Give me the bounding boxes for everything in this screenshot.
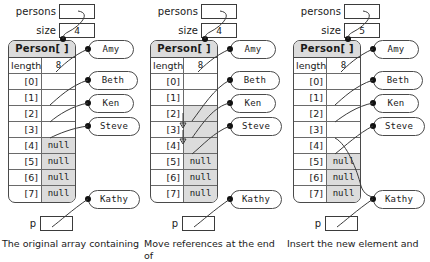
array-index-label: [6] (294, 170, 327, 185)
array-row[interactable]: [4] (151, 138, 217, 154)
array-row[interactable]: [0] (151, 74, 217, 90)
array-row[interactable]: [2] (9, 106, 75, 122)
panel-original-array: persons size 4 Person[ ] length 8 [0] [1… (0, 0, 145, 250)
array-cell-value: null (42, 154, 75, 169)
array-row[interactable]: [3] (294, 122, 360, 138)
p-value-box[interactable] (40, 216, 73, 231)
array-row[interactable]: [6]null (294, 170, 360, 186)
array-row[interactable]: [5]null (294, 154, 360, 170)
object-bubble-kathy[interactable]: Kathy (88, 190, 140, 209)
array-length-key: length (151, 58, 184, 73)
array-row[interactable]: [1] (9, 90, 75, 106)
persons-label: persons (146, 6, 198, 17)
object-bubble-kathy[interactable]: Kathy (373, 190, 425, 209)
array-length-value: 8 (42, 58, 75, 73)
p-value-box[interactable] (325, 216, 358, 231)
p-value-box[interactable] (182, 216, 215, 231)
array-row[interactable]: [3] (9, 122, 75, 138)
persons-value-box[interactable] (59, 4, 95, 19)
object-bubble-amy[interactable]: Amy (88, 40, 134, 59)
persons-reference-dot (345, 36, 351, 42)
p-variable-row: p (309, 216, 358, 231)
array-row[interactable]: [4] (294, 138, 360, 154)
amy-reference-dot (227, 46, 233, 52)
array-cell-value (327, 106, 360, 121)
array-cell-value: null (184, 154, 217, 169)
array-row[interactable]: [4]null (9, 138, 75, 154)
array-cell-value (327, 74, 360, 89)
array-index-label: [2] (9, 106, 42, 121)
object-bubble-beth[interactable]: Beth (88, 71, 138, 90)
object-bubble-steve[interactable]: Steve (230, 117, 282, 136)
array-index-label: [3] (151, 122, 184, 137)
persons-value-box[interactable] (344, 4, 380, 19)
object-bubble-amy[interactable]: Amy (230, 40, 276, 59)
panel-caption: The original array containing (2, 238, 145, 250)
array-row[interactable]: [7]null (294, 186, 360, 202)
array-index-label: [2] (294, 106, 327, 121)
ken-reference-dot (85, 100, 91, 106)
array-cell-value: null (42, 170, 75, 185)
array-object: Person[ ] length 8 [0] [1] [2] [3] [4]nu… (8, 40, 76, 203)
array-cell-value: null (42, 138, 75, 153)
array-row[interactable]: [0] (294, 74, 360, 90)
beth-reference-dot (227, 77, 233, 83)
array-row[interactable]: [2] (294, 106, 360, 122)
object-bubble-steve[interactable]: Steve (373, 117, 425, 136)
persons-value-box[interactable] (201, 4, 237, 19)
array-cell-value (184, 122, 217, 137)
array-row[interactable]: [1] (151, 90, 217, 106)
array-index-label: [6] (151, 170, 184, 185)
array-cell-value (184, 106, 217, 121)
object-bubble-kathy[interactable]: Kathy (230, 190, 282, 209)
array-row[interactable]: [5]null (9, 154, 75, 170)
beth-reference-dot (370, 77, 376, 83)
array-cell-value: null (327, 170, 360, 185)
array-index-label: [1] (9, 90, 42, 105)
array-index-label: [3] (9, 122, 42, 137)
array-cell-value (42, 122, 75, 137)
size-variable-row: size 4 (146, 23, 237, 38)
array-index-label: [7] (9, 186, 42, 202)
array-cell-value (42, 90, 75, 105)
object-bubble-beth[interactable]: Beth (230, 71, 280, 90)
array-row[interactable]: [3] (151, 122, 217, 138)
array-cell-value (42, 106, 75, 121)
size-label: size (4, 25, 56, 36)
array-index-label: [0] (151, 74, 184, 89)
array-row[interactable]: [6]null (9, 170, 75, 186)
kathy-reference-dot (227, 196, 233, 202)
panel-move-references: persons size 4 Person[ ] length 8 [0] [1… (142, 0, 287, 250)
array-index-label: [0] (294, 74, 327, 89)
panel-insert-element: persons size 5 Person[ ] length 8 [0] [1… (285, 0, 430, 250)
array-cell-value: null (184, 170, 217, 185)
object-bubble-beth[interactable]: Beth (373, 71, 423, 90)
array-length-row: length 8 (294, 58, 360, 74)
size-label: size (289, 25, 341, 36)
object-bubble-steve[interactable]: Steve (88, 117, 140, 136)
persons-variable-row: persons (4, 4, 95, 19)
array-row[interactable]: [0] (9, 74, 75, 90)
object-bubble-ken[interactable]: Ken (230, 94, 276, 113)
object-bubble-ken[interactable]: Ken (373, 94, 419, 113)
object-bubble-ken[interactable]: Ken (88, 94, 134, 113)
array-row[interactable]: [7]null (9, 186, 75, 202)
array-length-value: 8 (327, 58, 360, 73)
array-row[interactable]: [6]null (151, 170, 217, 186)
array-index-label: [5] (151, 154, 184, 169)
array-index-label: [4] (9, 138, 42, 153)
steve-reference-dot (227, 123, 233, 129)
array-row[interactable]: [5]null (151, 154, 217, 170)
array-cell-value: null (327, 186, 360, 202)
array-row[interactable]: [7]null (151, 186, 217, 202)
object-bubble-amy[interactable]: Amy (373, 40, 419, 59)
size-variable-row: size 4 (4, 23, 95, 38)
array-row[interactable]: [2] (151, 106, 217, 122)
array-index-label: [7] (294, 186, 327, 202)
array-cell-value (327, 90, 360, 105)
array-cell-value (327, 138, 360, 153)
p-label: p (309, 218, 321, 229)
array-cell-value (184, 138, 217, 153)
ken-reference-dot (227, 100, 233, 106)
array-row[interactable]: [1] (294, 90, 360, 106)
